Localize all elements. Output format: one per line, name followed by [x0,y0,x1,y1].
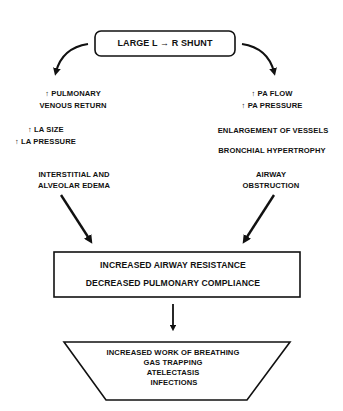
right-step2: ENLARGEMENT OF VESSELS [218,127,329,135]
middle-box-line2: DECREASED PULMONARY COMPLIANCE [86,279,260,288]
right-step1-line1: ↑ PA FLOW [252,90,293,98]
left-step1-line2: VENOUS RETURN [39,102,106,110]
diagonal-arrow-right-icon [245,195,274,240]
diagram-canvas: LARGE L → R SHUNT ↑ PULMONARY VENOUS RET… [0,0,343,411]
left-step3-line1: INTERSTITIAL AND [38,171,109,179]
curved-arrow-left-icon [56,44,88,72]
left-step2-line1: ↑ LA SIZE [28,126,64,134]
diagonal-arrow-left-icon [61,195,90,240]
left-step3-line2: ALVEOLAR EDEMA [38,182,110,190]
title-box-label: LARGE L → R SHUNT [117,39,212,48]
right-step4-line2: OBSTRUCTION [243,182,300,190]
left-step2-line2: ↑ LA PRESSURE [15,138,76,146]
left-step1-line1: ↑ PULMONARY [45,90,101,98]
bottom-box-line1: INCREASED WORK OF BREATHING [107,349,240,357]
middle-box-line1: INCREASED AIRWAY RESISTANCE [100,261,246,270]
curved-arrow-right-icon [242,44,274,72]
bottom-box-line2: GAS TRAPPING [143,359,202,367]
middle-box [54,252,300,297]
bottom-box-line3: ATELECTASIS [147,369,200,377]
right-step4-line1: AIRWAY [256,171,286,179]
bottom-box-line4: INFECTIONS [151,379,198,387]
right-step1-line2: ↑ PA PRESSURE [242,102,303,110]
right-step3: BRONCHIAL HYPERTROPHY [218,147,325,155]
